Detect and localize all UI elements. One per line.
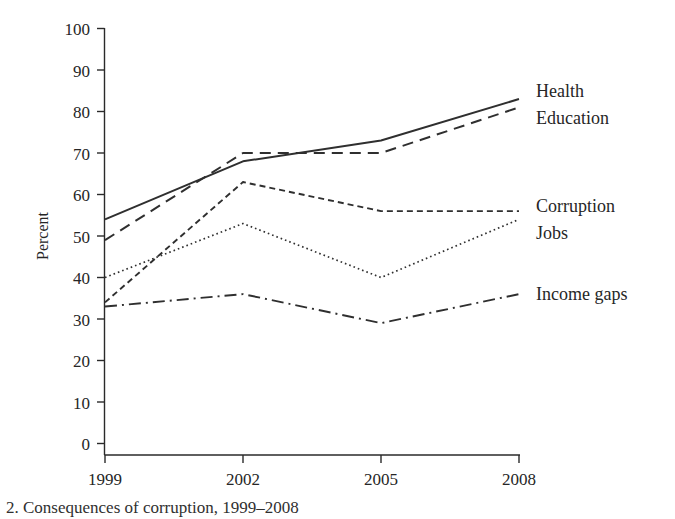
y-tick-label: 30: [73, 311, 90, 330]
axis-group: [105, 28, 521, 455]
y-tick-label: 90: [73, 62, 90, 81]
line-chart: 100 90 80 70 60 50 40 30 20 10 0 1999 20…: [0, 0, 675, 519]
series-label-corruption: Corruption: [536, 196, 615, 216]
x-tick-group: 1999 2002 2005 2008: [88, 455, 536, 489]
y-tick-label: 70: [73, 145, 90, 164]
y-tick-label: 20: [73, 352, 90, 371]
y-tick-label: 50: [73, 228, 90, 247]
y-axis-title: Percent: [34, 211, 51, 260]
y-tick-label: 80: [73, 103, 90, 122]
y-tick-label: 60: [73, 186, 90, 205]
y-tick-label: 10: [73, 394, 90, 413]
x-tick-label: 2005: [364, 470, 398, 489]
x-tick-label: 2002: [226, 470, 260, 489]
y-tick-label: 100: [65, 20, 91, 39]
y-tick-label: 0: [82, 435, 91, 454]
y-tick-label: 40: [73, 269, 90, 288]
figure-caption: 2. Consequences of corruption, 1999–2008: [6, 498, 299, 518]
figure-container: 100 90 80 70 60 50 40 30 20 10 0 1999 20…: [0, 0, 675, 519]
y-tick-group: 100 90 80 70 60 50 40 30 20 10 0: [65, 20, 105, 454]
series-label-health: Health: [536, 81, 584, 101]
series-label-education: Education: [536, 108, 609, 128]
series-label-jobs: Jobs: [536, 223, 568, 243]
series-group: [105, 99, 519, 323]
series-label-income-gaps: Income gaps: [536, 284, 627, 304]
series-label-group: Health Education Corruption Jobs Income …: [536, 81, 627, 304]
x-tick-label: 2008: [502, 470, 536, 489]
series-line-education: [105, 107, 519, 240]
x-tick-label: 1999: [88, 470, 122, 489]
series-line-income-gaps: [105, 294, 519, 323]
